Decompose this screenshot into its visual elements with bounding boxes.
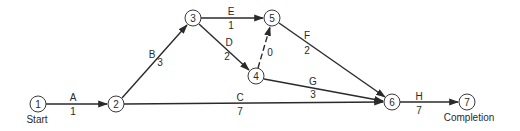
diagram-canvas: A 1 B 3 C 7 D 2 E 1 0 F 2 — [0, 0, 520, 131]
node-5-label: 5 — [269, 13, 275, 24]
network-diagram: A 1 B 3 C 7 D 2 E 1 0 F 2 — [0, 0, 520, 131]
node-6: 6 — [384, 94, 400, 110]
edge-a-activity: A — [70, 92, 77, 103]
nodes: 1 2 3 4 5 6 7 — [30, 10, 475, 112]
edge-d-activity: D — [225, 37, 232, 48]
edge-f-duration: 2 — [304, 45, 310, 56]
edge-h-activity: H — [415, 91, 422, 102]
edge-e-activity: E — [228, 6, 235, 17]
node-2: 2 — [108, 96, 124, 112]
edge-g-duration: 3 — [310, 89, 316, 100]
node-3-label: 3 — [190, 13, 196, 24]
edge-c-duration: 7 — [237, 106, 243, 117]
node-3: 3 — [185, 10, 201, 26]
node-1-label: 1 — [35, 99, 41, 110]
node-6-label: 6 — [389, 97, 395, 108]
edge-h-duration: 7 — [416, 105, 422, 116]
node-1: 1 — [30, 96, 46, 112]
edge-a-duration: 1 — [70, 106, 76, 117]
node-2-label: 2 — [113, 99, 119, 110]
edge-dummy-duration: 0 — [267, 47, 273, 58]
edge-d-duration: 2 — [224, 51, 230, 62]
node-4-label: 4 — [253, 71, 259, 82]
edge-g-activity: G — [309, 76, 317, 87]
edge-c — [124, 102, 383, 104]
edge-b-activity: B — [149, 49, 156, 60]
node-7: 7 — [459, 94, 475, 110]
edge-d — [199, 24, 249, 70]
edge-e-duration: 1 — [228, 20, 234, 31]
node-4: 4 — [248, 68, 264, 84]
edge-c-activity: C — [236, 92, 243, 103]
edge-f — [279, 23, 385, 97]
edge-f-activity: F — [304, 30, 310, 41]
node-5: 5 — [264, 10, 280, 26]
edge-b — [122, 25, 187, 98]
start-caption: Start — [26, 114, 47, 125]
node-7-label: 7 — [464, 97, 470, 108]
completion-caption: Completion — [444, 112, 495, 123]
edge-b-duration: 3 — [157, 57, 163, 68]
